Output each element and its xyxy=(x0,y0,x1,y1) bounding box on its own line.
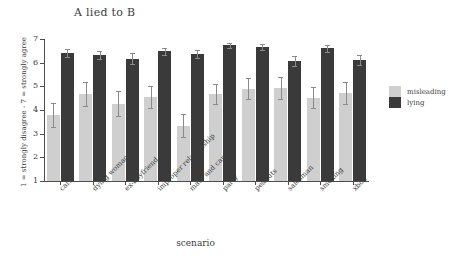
bar-group xyxy=(272,39,305,181)
error-bar-cap xyxy=(148,86,153,87)
legend-item: lying xyxy=(389,97,446,108)
error-bar-cap xyxy=(130,64,135,65)
x-axis-title: scenario xyxy=(0,238,461,248)
error-bar-cap xyxy=(278,77,283,78)
bar-group xyxy=(239,39,272,181)
error-bar xyxy=(295,56,296,66)
error-bar-cap xyxy=(357,65,362,66)
bar-lying xyxy=(126,59,139,181)
error-bar-cap xyxy=(343,82,348,83)
bar-group xyxy=(337,39,370,181)
error-bar xyxy=(313,87,314,108)
chart-figure: A lied to B 1 = strongly disagree - 7 = … xyxy=(0,0,461,264)
legend-swatch-lying xyxy=(389,97,401,108)
error-bar-cap xyxy=(311,108,316,109)
error-bar xyxy=(281,77,282,100)
chart-title: A lied to B xyxy=(74,6,135,19)
error-bar-cap xyxy=(213,84,218,85)
error-bar-cap xyxy=(97,59,102,60)
bar-lying xyxy=(61,53,74,181)
error-bar xyxy=(53,103,54,127)
error-bar-cap xyxy=(195,50,200,51)
bar-lying xyxy=(191,54,204,181)
error-bar-cap xyxy=(292,66,297,67)
bar-group xyxy=(44,39,77,181)
error-bar xyxy=(86,82,87,106)
error-bar xyxy=(67,49,68,57)
error-bar-cap xyxy=(246,99,251,100)
bar-misleading xyxy=(79,94,92,181)
bar-misleading xyxy=(274,88,287,181)
error-bar-cap xyxy=(83,106,88,107)
y-tick-label: 6 xyxy=(33,57,38,68)
bar-lying xyxy=(288,61,301,181)
error-bar xyxy=(132,53,133,63)
plot-area: 1234567 carsdying womanex-boyfriendimpro… xyxy=(44,39,369,182)
legend-label: misleading xyxy=(407,88,446,96)
bar-lying xyxy=(158,51,171,181)
error-bar xyxy=(197,50,198,58)
error-bar-cap xyxy=(51,103,56,104)
error-bar xyxy=(346,82,347,105)
error-bar-cap xyxy=(83,82,88,83)
bar-lying xyxy=(256,47,269,181)
error-bar-cap xyxy=(260,50,265,51)
error-bar-cap xyxy=(65,49,70,50)
error-bar-cap xyxy=(325,45,330,46)
chart-legend: misleadinglying xyxy=(389,86,446,108)
error-bar-cap xyxy=(311,87,316,88)
error-bar xyxy=(100,51,101,60)
error-bar-cap xyxy=(292,56,297,57)
bar-lying xyxy=(93,55,106,181)
bar-misleading xyxy=(242,89,255,181)
y-tick-label: 7 xyxy=(33,33,38,44)
y-tick-label: 3 xyxy=(33,128,38,139)
y-axis-title: 1 = strongly disagree - 7 = strongly agr… xyxy=(20,32,28,192)
error-bar-cap xyxy=(278,99,283,100)
y-tick-label: 4 xyxy=(33,104,38,115)
legend-swatch-misleading xyxy=(389,86,401,97)
y-tick-mark xyxy=(40,181,44,182)
error-bar-cap xyxy=(181,114,186,115)
error-bar-cap xyxy=(227,48,232,49)
error-bar-cap xyxy=(148,108,153,109)
bar-lying xyxy=(353,60,366,181)
error-bar-cap xyxy=(213,104,218,105)
error-bar xyxy=(165,48,166,55)
error-bar xyxy=(151,86,152,109)
y-tick-label: 2 xyxy=(33,151,38,162)
error-bar xyxy=(216,84,217,104)
legend-label: lying xyxy=(407,99,424,107)
error-bar-cap xyxy=(343,104,348,105)
error-bar-cap xyxy=(357,55,362,56)
error-bar xyxy=(118,91,119,116)
bar-group xyxy=(304,39,337,181)
error-bar-cap xyxy=(65,57,70,58)
y-tick-label: 5 xyxy=(33,80,38,91)
error-bar-cap xyxy=(116,91,121,92)
error-bar-cap xyxy=(227,43,232,44)
error-bar xyxy=(248,78,249,99)
x-axis-title-text: scenario xyxy=(176,238,215,248)
error-bar-cap xyxy=(181,137,186,138)
error-bar-cap xyxy=(162,48,167,49)
error-bar-cap xyxy=(162,55,167,56)
error-bar xyxy=(360,55,361,64)
error-bar-cap xyxy=(260,44,265,45)
error-bar xyxy=(183,114,184,137)
error-bar-cap xyxy=(116,116,121,117)
error-bar-cap xyxy=(97,51,102,52)
error-bar-cap xyxy=(195,58,200,59)
error-bar-cap xyxy=(130,53,135,54)
error-bar-cap xyxy=(246,78,251,79)
legend-item: misleading xyxy=(389,86,446,97)
error-bar-cap xyxy=(51,127,56,128)
bar-lying xyxy=(321,48,334,181)
error-bar-cap xyxy=(325,52,330,53)
bar-group xyxy=(77,39,110,181)
y-tick-label: 1 xyxy=(33,175,38,186)
